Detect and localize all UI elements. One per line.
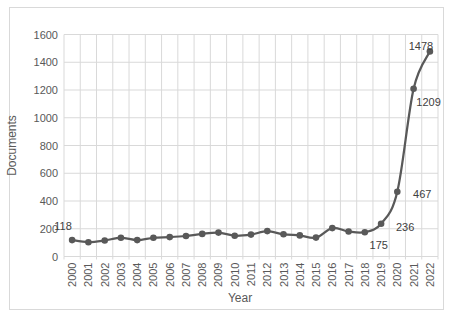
- y-tick-label-1400: 1400: [34, 56, 58, 68]
- data-point-2021: [410, 86, 417, 93]
- chart-figure: 0200400600800100012001400160020002001200…: [0, 0, 451, 324]
- x-tick-label-2008: 2008: [196, 263, 208, 287]
- y-tick-label-1000: 1000: [34, 112, 58, 124]
- x-axis-title: Year: [228, 291, 252, 305]
- data-label-2020: 467: [413, 188, 431, 200]
- data-point-2015: [313, 234, 320, 241]
- x-tick-label-2005: 2005: [147, 263, 159, 287]
- x-tick-label-2003: 2003: [115, 263, 127, 287]
- x-tick-label-2017: 2017: [343, 263, 355, 287]
- data-point-2011: [248, 231, 255, 238]
- x-tick-label-2014: 2014: [294, 263, 306, 287]
- x-tick-label-2006: 2006: [164, 263, 176, 287]
- x-tick-label-2022: 2022: [424, 263, 436, 287]
- y-tick-label-800: 800: [40, 140, 58, 152]
- data-point-2006: [166, 234, 173, 241]
- x-tick-label-2007: 2007: [180, 263, 192, 287]
- x-tick-label-2016: 2016: [326, 263, 338, 287]
- data-point-2014: [297, 232, 304, 239]
- x-tick-label-2010: 2010: [229, 263, 241, 287]
- data-point-2012: [264, 228, 271, 235]
- data-point-2010: [231, 232, 238, 239]
- data-label-2022: 1478: [409, 40, 433, 52]
- y-tick-label-0: 0: [52, 251, 58, 263]
- data-point-2009: [215, 229, 222, 236]
- documents-per-year-line-chart: 0200400600800100012001400160020002001200…: [0, 0, 451, 324]
- data-point-2005: [150, 235, 157, 242]
- data-point-2002: [101, 237, 108, 244]
- x-tick-label-2004: 2004: [131, 263, 143, 287]
- x-tick-label-2012: 2012: [261, 263, 273, 287]
- x-tick-label-2009: 2009: [212, 263, 224, 287]
- data-point-2001: [85, 239, 92, 246]
- data-point-2008: [199, 231, 206, 238]
- x-tick-label-2000: 2000: [66, 263, 78, 287]
- y-tick-label-1600: 1600: [34, 29, 58, 41]
- data-point-2007: [183, 233, 190, 240]
- x-tick-label-2013: 2013: [278, 263, 290, 287]
- data-point-2004: [134, 237, 141, 244]
- x-tick-label-2011: 2011: [245, 263, 257, 287]
- data-point-2018: [362, 229, 369, 236]
- data-point-2017: [345, 228, 352, 235]
- x-tick-label-2002: 2002: [99, 263, 111, 287]
- data-point-2020: [394, 188, 401, 195]
- data-point-2016: [329, 225, 336, 232]
- data-label-2000: 118: [54, 220, 72, 232]
- x-tick-label-2020: 2020: [391, 263, 403, 287]
- data-label-2018: 175: [370, 239, 388, 251]
- y-tick-label-600: 600: [40, 167, 58, 179]
- y-tick-label-1200: 1200: [34, 84, 58, 96]
- data-point-2000: [69, 237, 76, 244]
- data-point-2013: [280, 231, 287, 238]
- data-label-2021: 1209: [416, 96, 440, 108]
- x-tick-label-2018: 2018: [359, 263, 371, 287]
- x-tick-label-2021: 2021: [408, 263, 420, 287]
- x-tick-label-2015: 2015: [310, 263, 322, 287]
- x-tick-label-2001: 2001: [82, 263, 94, 287]
- x-tick-label-2019: 2019: [375, 263, 387, 287]
- data-label-2019: 236: [396, 221, 414, 233]
- data-point-2003: [118, 235, 125, 242]
- series-line-documents: [72, 51, 430, 242]
- y-axis-title: Documents: [5, 115, 19, 176]
- data-point-2019: [378, 221, 385, 228]
- y-tick-label-400: 400: [40, 195, 58, 207]
